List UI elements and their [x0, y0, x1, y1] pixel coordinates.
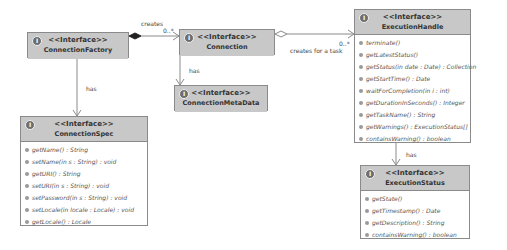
- public-method-icon: [365, 233, 369, 237]
- interface-icon: I: [359, 13, 369, 23]
- class-name: ConnectionMetaData: [175, 98, 267, 108]
- class-connection-meta-data[interactable]: I <<Interface>> ConnectionMetaData: [174, 85, 268, 111]
- interface-icon: I: [184, 33, 194, 43]
- operation[interactable]: getTimestamp() : Date: [361, 205, 469, 217]
- class-name: ConnectionFactory: [28, 45, 128, 55]
- interface-icon: I: [25, 120, 35, 130]
- operation[interactable]: waitForCompletion(in i : int): [355, 85, 470, 97]
- label-has-status: has: [406, 151, 417, 158]
- operation[interactable]: setPassword(in s : String) : void: [21, 192, 147, 204]
- stereotype: <<Interface>>: [21, 119, 147, 129]
- public-method-icon: [359, 41, 363, 45]
- class-connection-factory[interactable]: I <<Interface>> ConnectionFactory: [27, 32, 129, 58]
- public-method-icon: [25, 172, 29, 176]
- operation[interactable]: getStatus(in date : Date) : Collection: [355, 61, 470, 73]
- aggregation-creates-for-task: [275, 30, 354, 38]
- operation[interactable]: containsWarning() : boolean: [355, 133, 470, 145]
- interface-icon: I: [32, 36, 42, 46]
- operation[interactable]: getLocale() : Locale: [21, 216, 147, 228]
- operation[interactable]: containsWarning() : boolean: [361, 229, 469, 241]
- label-creates-for-task: creates for a task: [290, 47, 342, 54]
- operation[interactable]: setName(in s : String) : void: [21, 156, 147, 168]
- class-name: ExecutionHandle: [355, 22, 470, 32]
- label-has-meta: has: [189, 67, 200, 74]
- operation[interactable]: getName() : String: [21, 144, 147, 156]
- class-name: ConnectionSpec: [21, 129, 147, 139]
- association-factory-spec: [73, 57, 81, 116]
- public-method-icon: [365, 197, 369, 201]
- public-method-icon: [25, 208, 29, 212]
- multiplicity-creates: 0..*: [163, 27, 174, 34]
- class-name: Connection: [180, 42, 274, 52]
- public-method-icon: [25, 196, 29, 200]
- interface-icon: I: [365, 169, 375, 179]
- operation[interactable]: getStartTime() : Date: [355, 73, 470, 85]
- operation[interactable]: getState(): [361, 193, 469, 205]
- public-method-icon: [365, 221, 369, 225]
- stereotype: <<Interface>>: [361, 168, 469, 178]
- operation[interactable]: setLocale(in locale : Locale) : void: [21, 204, 147, 216]
- label-has-spec: has: [86, 85, 97, 92]
- stereotype: <<Interface>>: [180, 32, 274, 42]
- public-method-icon: [359, 77, 363, 81]
- class-connection-spec[interactable]: I <<Interface>> ConnectionSpec getName()…: [20, 116, 148, 226]
- operation[interactable]: setURI(in s : String) : void: [21, 180, 147, 192]
- stereotype: <<Interface>>: [28, 35, 128, 45]
- operations-list: getState() getTimestamp() : Date getDesc…: [361, 191, 469, 242]
- public-method-icon: [359, 125, 363, 129]
- operation[interactable]: getLatestStatus(): [355, 49, 470, 61]
- public-method-icon: [359, 65, 363, 69]
- public-method-icon: [359, 89, 363, 93]
- stereotype: <<Interface>>: [355, 12, 470, 22]
- operations-list: getName() : String setName(in s : String…: [21, 142, 147, 229]
- public-method-icon: [25, 220, 29, 224]
- public-method-icon: [25, 184, 29, 188]
- class-execution-status[interactable]: I <<Interface>> ExecutionStatus getState…: [360, 165, 470, 239]
- multiplicity-creates-for-task: 0..*: [339, 40, 350, 47]
- label-creates: creates: [141, 20, 163, 27]
- operation[interactable]: getTaskName() : String: [355, 109, 470, 121]
- operation[interactable]: getWarnings() : ExecutionStatus[]: [355, 121, 470, 133]
- class-connection[interactable]: I <<Interface>> Connection: [179, 29, 275, 55]
- public-method-icon: [359, 137, 363, 141]
- operation[interactable]: getURI() : String: [21, 168, 147, 180]
- interface-icon: I: [179, 89, 189, 99]
- operation[interactable]: terminate(): [355, 37, 470, 49]
- operation[interactable]: getDescription() : String: [361, 217, 469, 229]
- public-method-icon: [359, 101, 363, 105]
- public-method-icon: [365, 209, 369, 213]
- association-connection-meta: [176, 54, 184, 85]
- public-method-icon: [359, 53, 363, 57]
- operations-list: terminate() getLatestStatus() getStatus(…: [355, 35, 470, 146]
- class-execution-handle[interactable]: I <<Interface>> ExecutionHandle terminat…: [354, 9, 471, 143]
- public-method-icon: [25, 148, 29, 152]
- public-method-icon: [359, 113, 363, 117]
- operation[interactable]: getDurationInSeconds() : Integer: [355, 97, 470, 109]
- public-method-icon: [25, 160, 29, 164]
- class-name: ExecutionStatus: [361, 178, 469, 188]
